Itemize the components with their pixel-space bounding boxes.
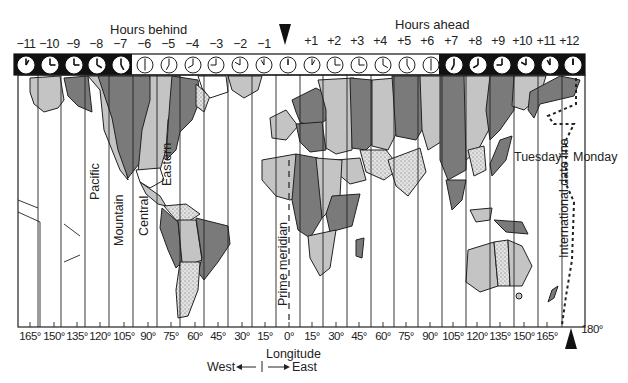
clock-icon [255,56,273,78]
mountain-zone-label: Mountain [112,195,126,246]
clock-icon [65,56,83,78]
west-label: West [207,360,235,374]
clock-icon [445,56,463,78]
prime-meridian-label: Prime meridian [276,222,290,306]
clock-icon [493,56,511,78]
prime-meridian-marker-icon [279,24,291,45]
central-zone-label: Central [137,196,151,236]
clock-icon [326,56,344,78]
east-label: East [292,360,317,374]
clock-icon [88,56,106,78]
clock-icon [17,56,35,78]
tick-label: 180° [577,323,607,335]
clock-icon [207,56,225,78]
clock-icon [231,56,249,78]
clock-icon [422,56,440,78]
clock-icon [279,56,297,78]
tick-label: 165° [532,330,562,342]
eastern-zone-label: Eastern [160,143,174,186]
clock-icon [112,56,130,78]
clock-icon [41,56,59,78]
clock-icon [564,56,582,78]
clock-icon [398,56,416,78]
clock-icon [517,56,535,78]
clock-icon [303,56,321,78]
clock-icon [469,56,487,78]
tuesday-label: Tuesday [514,150,561,164]
date-line-marker-icon [565,328,577,349]
longitude-title: Longitude [266,347,321,361]
pacific-zone-label: Pacific [88,163,102,200]
clock-icon [136,56,154,78]
clock-icon [184,56,202,78]
clock-icon [541,56,559,78]
monday-label: Monday [573,150,617,164]
clock-icon [160,56,178,78]
clock-icon [350,56,368,78]
clock-icon [374,56,392,78]
